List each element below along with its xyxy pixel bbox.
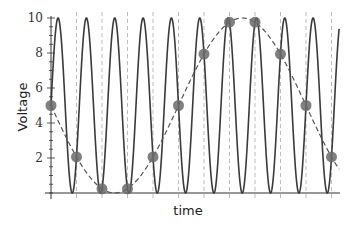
y-tick-label: 8 [35, 46, 43, 60]
sample-marker [199, 49, 210, 60]
sample-marker [97, 183, 108, 194]
y-tick-label: 4 [35, 116, 43, 130]
sample-marker [275, 49, 286, 60]
y-tick-label: 6 [35, 81, 43, 95]
sample-marker [71, 151, 82, 162]
sample-guide-lines [77, 12, 332, 200]
sample-marker [122, 183, 133, 194]
sample-marker [250, 17, 261, 28]
sample-marker [326, 151, 337, 162]
x-axis-title: time [173, 203, 202, 218]
sample-marker [148, 151, 159, 162]
sample-marker [46, 100, 57, 111]
y-tick-label: 10 [28, 11, 43, 25]
original-signal-line [51, 18, 339, 193]
sample-marker [224, 17, 235, 28]
aliasing-chart: 246810 time Voltage [0, 0, 356, 227]
sample-marker [173, 100, 184, 111]
y-tick-label: 2 [35, 151, 43, 165]
y-axis-title: Voltage [15, 83, 30, 132]
sample-marker [301, 100, 312, 111]
